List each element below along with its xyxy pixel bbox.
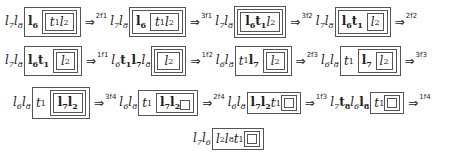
prefix: l7l6 (193, 131, 211, 147)
term: l2 (371, 15, 380, 29)
term: l7l2t1 (251, 95, 281, 111)
step-2-1: l7l8 l6t1 l2 ⇒1f1 (5, 46, 108, 76)
empty-box (387, 98, 397, 108)
outer-box: l6t1 l2 (335, 7, 391, 37)
term: t1l7 (239, 53, 263, 69)
term: l2 (164, 54, 173, 68)
inner-box: l7l2 (53, 93, 83, 113)
middle-box: l6t1 l2 (338, 10, 388, 34)
step-3-3: l6l8 l7l2t1 ⇒1f3 (228, 92, 328, 114)
middle-box: l2 (263, 49, 288, 73)
term: t1 (142, 96, 156, 110)
prefix: l7l8 (110, 14, 128, 30)
step-3-1: l6l8 t1 l7l2 ⇒3f4 (13, 87, 116, 119)
prefix: l7l8 (215, 14, 233, 30)
outer-box: l6t1l2 (234, 6, 286, 38)
prefix: l6l8 (228, 95, 246, 111)
term: l2l8t1 (216, 132, 244, 146)
term: l6t1 (28, 53, 53, 69)
term: l6t1l2 (245, 14, 275, 30)
rewrite-arrow: ⇒2f3 (296, 54, 318, 68)
derivation-row-2: l7l8 l6t1 l2 ⇒1f1 l6t1l7l8 l2 ⇒1f2 l6l8 … (5, 46, 454, 76)
term: l6 (28, 14, 42, 30)
outer-box: l6 t1l2 (129, 7, 186, 37)
outer-box: t1 l7l2 (32, 87, 90, 119)
rewrite-arrow: ⇒2f1 (85, 15, 107, 29)
outer-box: l7l2t1 (247, 92, 301, 114)
term: l6 (136, 14, 150, 30)
rewrite-arrow: ⇒1f3 (305, 96, 327, 110)
middle-box: l2 (154, 49, 183, 73)
inner-box: l2 (157, 52, 180, 70)
term: l2 (271, 54, 280, 68)
inner-box: l6t1l2 (240, 12, 280, 32)
prefix: l7l8 (5, 14, 23, 30)
step-3-4: l7t8l6l8 t1 ⇒1f4 (330, 92, 431, 114)
step-3-2: l6l8 t1 l7l2 ⇒2f4 (119, 90, 224, 116)
rewrite-arrow: ⇒1f2 (190, 54, 212, 68)
outer-box: l6t1 l2 (24, 46, 82, 76)
outer-box: t1 (370, 92, 404, 114)
inner-box: l2 (266, 52, 285, 70)
term: l2 (61, 54, 70, 68)
middle-box: l6t1l2 (237, 9, 283, 35)
step-1-1: l7l8 l6 t1l2 ⇒2f1 (5, 7, 107, 37)
empty-box (284, 98, 294, 108)
term: t1 (36, 96, 50, 110)
rewrite-arrow: ⇒3f4 (94, 96, 116, 110)
prefix: l6t1l7l8 (111, 53, 150, 69)
derivation-row-1: l7l8 l6 t1l2 ⇒2f1 l7l8 l6 t1l2 ⇒3f1 l7l8 (5, 6, 454, 38)
term: l7 (362, 53, 376, 69)
inner-box: l2 (376, 52, 393, 70)
outer-box: l6 t1l2 (24, 7, 81, 37)
empty-box (247, 134, 257, 144)
derivation-row-4: l7l6 l2l8t1 (193, 128, 454, 150)
step-2-3: l6l8 t1l7 l2 ⇒2f3 (216, 46, 318, 76)
inner-box: t1l2 (45, 13, 74, 31)
inner-box: l7l2 (156, 93, 194, 113)
prefix: l7t8l6l8 (330, 95, 369, 111)
prefix: l6l8 (13, 95, 31, 111)
inner-box: l2 (56, 52, 75, 70)
inner-box: t1l2 (150, 13, 179, 31)
prefix: l6l8 (119, 95, 137, 111)
outer-box: l2l8t1 (212, 128, 264, 150)
middle-box: l6 t1l2 (132, 10, 183, 34)
derivation-row-3: l6l8 t1 l7l2 ⇒3f4 l6l8 t1 l7l2 ⇒2f4 l6l8… (13, 87, 454, 119)
outer-box: t1 l7 l2 (340, 46, 401, 76)
term: t1l2 (50, 15, 69, 29)
rewrite-arrow: ⇒2f2 (395, 15, 417, 29)
step-4-1: l7l6 l2l8t1 (193, 128, 264, 150)
step-2-2: l6t1l7l8 l2 ⇒1f2 (111, 46, 213, 76)
step-1-2: l7l8 l6 t1l2 ⇒3f1 (110, 7, 212, 37)
prefix: l7l8 (316, 14, 334, 30)
term: t1l2 (155, 15, 174, 29)
middle-box: t1l2 (42, 10, 77, 34)
term: l7l2 (160, 95, 180, 111)
outer-box: l2 (151, 46, 186, 76)
prefix: l6l8 (216, 53, 234, 69)
step-1-3: l7l8 l6t1l2 ⇒3f2 (215, 6, 313, 38)
outer-box: t1l7 l2 (235, 46, 292, 76)
rewrite-arrow: ⇒1f4 (408, 96, 430, 110)
middle-box (384, 95, 400, 111)
term: t1 (344, 54, 358, 68)
rewrite-arrow: ⇒3f2 (290, 15, 312, 29)
inner-box: l2 (367, 13, 384, 31)
prefix: l6l8 (321, 53, 339, 69)
term: t1 (374, 96, 384, 110)
term: l2 (380, 54, 389, 68)
middle-box (244, 131, 260, 147)
step-2-4: l6l8 t1 l7 l2 ⇒3f3 (321, 46, 427, 76)
prefix: l7l8 (5, 53, 23, 69)
rewrite-arrow: ⇒2f4 (202, 96, 224, 110)
middle-box: l7 l2 (358, 49, 397, 73)
rewrite-arrow: ⇒3f1 (190, 15, 212, 29)
term: l7l2 (58, 95, 78, 111)
outer-box: t1 l7l2 (138, 90, 198, 116)
step-1-4: l7l8 l6t1 l2 ⇒2f2 (316, 7, 417, 37)
middle-box: l7l2 (50, 90, 86, 116)
rewrite-arrow: ⇒1f1 (86, 54, 108, 68)
term: l6t1 (342, 14, 367, 30)
empty-box (180, 100, 190, 110)
